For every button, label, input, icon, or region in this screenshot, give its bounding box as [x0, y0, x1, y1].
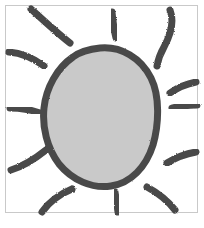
- sun-drawing-canvas: Hand-drawn sun sketch Sun with circular …: [0, 0, 204, 228]
- ray-top-center: [112, 12, 116, 38]
- sun-artwork: [0, 0, 204, 228]
- ray-bottom-center: [115, 192, 118, 212]
- sun-disc: [44, 48, 158, 187]
- ray-right-middle: [172, 105, 197, 108]
